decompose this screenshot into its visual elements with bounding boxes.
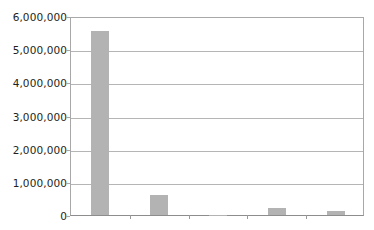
bar: [327, 211, 345, 215]
y-axis-tick-label: 4,000,000: [3, 78, 67, 89]
bar: [268, 208, 286, 215]
x-axis-tick-mark: [306, 215, 307, 219]
bar-chart: 01,000,0002,000,0003,000,0004,000,0005,0…: [0, 0, 374, 230]
y-axis-tick-label: 0: [3, 211, 67, 222]
x-axis-tick-mark: [189, 215, 190, 219]
bar-series: [71, 18, 363, 215]
plot-area: [70, 17, 364, 216]
y-axis-tick-label: 3,000,000: [3, 111, 67, 122]
y-axis-tick-label: 1,000,000: [3, 177, 67, 188]
y-axis-tick-label: 2,000,000: [3, 144, 67, 155]
x-axis-tick-mark: [247, 215, 248, 219]
x-axis-tick-mark: [130, 215, 131, 219]
y-axis-tick-label: 6,000,000: [3, 12, 67, 23]
bar: [91, 31, 109, 215]
bar: [209, 215, 227, 216]
y-axis-tick-mark: [66, 216, 70, 217]
y-axis-tick-label: 5,000,000: [3, 45, 67, 56]
y-axis-tick-labels: 01,000,0002,000,0003,000,0004,000,0005,0…: [0, 0, 67, 230]
bar: [150, 195, 168, 215]
